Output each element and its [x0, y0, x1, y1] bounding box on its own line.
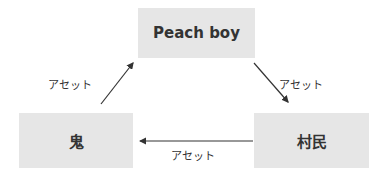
node-peach-boy: Peach boy	[138, 8, 255, 58]
edge-label-peach-boy-to-villagers: アセット	[279, 76, 323, 92]
arrow-oni-to-peach-boy	[101, 63, 133, 104]
node-villagers: 村民	[254, 113, 369, 168]
edge-label-villagers-to-oni: アセット	[171, 147, 215, 163]
node-label: Peach boy	[153, 24, 240, 42]
node-label: 村民	[297, 130, 327, 151]
node-oni: 鬼	[19, 113, 133, 168]
edge-label-oni-to-peach-boy: アセット	[48, 76, 92, 92]
node-label: 鬼	[69, 130, 84, 151]
